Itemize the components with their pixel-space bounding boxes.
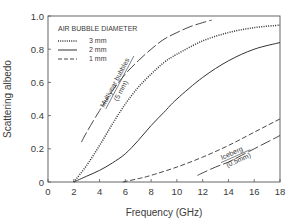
series-line-1-mm [123, 119, 280, 182]
x-tick-label: 8 [148, 186, 153, 197]
x-tick-label: 12 [197, 186, 208, 197]
legend-label-1mm: 1 mm [89, 55, 107, 62]
x-tick-label: 18 [275, 186, 286, 197]
axis-tick-labels: 02468101214161800.20.40.60.81.0 [31, 11, 286, 198]
legend-title: AIR BUBBLE DIAMETER [58, 25, 137, 32]
y-tick-label: 0.8 [31, 44, 44, 55]
y-axis-title: Scattering albedo [2, 60, 13, 138]
y-tick-label: 0 [39, 177, 44, 188]
x-tick-label: 10 [172, 186, 183, 197]
legend-label-2mm: 2 mm [89, 46, 107, 53]
legend-label-3mm: 3 mm [89, 37, 107, 44]
x-tick-label: 16 [249, 186, 260, 197]
y-tick-label: 1.0 [31, 11, 44, 22]
legend: AIR BUBBLE DIAMETER 3 mm 2 mm 1 mm [58, 25, 137, 62]
y-tick-label: 0.4 [31, 110, 44, 121]
x-axis-title: Frequency (GHz) [126, 207, 203, 218]
x-tick-label: 2 [71, 186, 76, 197]
series-line-2-mm [74, 43, 280, 182]
x-tick-label: 6 [123, 186, 128, 197]
y-tick-label: 0.2 [31, 143, 44, 154]
annotation-iceberg: Iceberg (0.5mm) [218, 142, 254, 171]
x-tick-label: 14 [223, 186, 234, 197]
x-tick-label: 4 [97, 186, 102, 197]
scattering-albedo-chart: 02468101214161800.20.40.60.81.0 Frequenc… [0, 0, 293, 223]
x-tick-label: 0 [45, 186, 50, 197]
y-tick-label: 0.6 [31, 77, 44, 88]
